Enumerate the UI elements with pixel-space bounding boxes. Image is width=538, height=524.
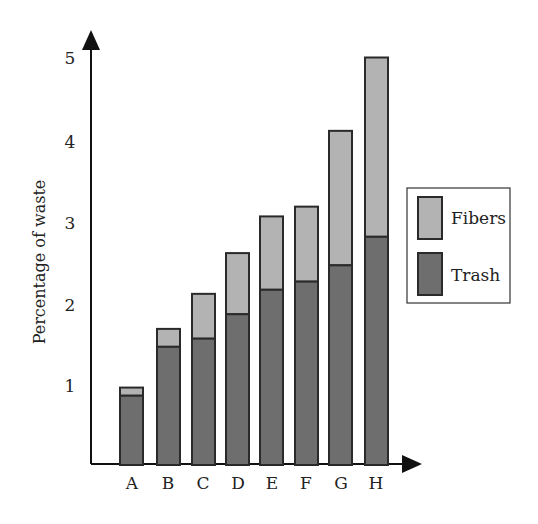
bar-segment-fibers [329,131,352,265]
bar-segment-trash [329,265,352,465]
x-tick-a: A [125,473,139,493]
legend: Fibers Trash [407,188,510,303]
bar-segment-fibers [226,253,249,314]
bar-segment-trash [226,314,249,465]
x-axis-arrow-icon [402,455,422,473]
x-tick-d: D [231,473,245,493]
y-tick-2: 2 [65,295,76,315]
bar-f [295,207,318,465]
y-axis [82,30,100,464]
y-tick-1: 1 [65,376,76,396]
y-tick-3: 3 [65,213,76,233]
bar-h [365,58,388,466]
x-tick-h: H [369,473,384,493]
bar-b [157,329,180,465]
bar-segment-fibers [192,294,215,339]
x-tick-c: C [196,473,209,493]
x-tick-g: G [334,473,348,493]
legend-label-trash: Trash [451,265,500,285]
bar-segment-trash [120,396,143,465]
bar-a [120,388,143,465]
bar-e [260,216,283,465]
x-tick-b: B [162,473,175,493]
x-tick-e: E [266,473,278,493]
y-tick-4: 4 [65,132,76,152]
bar-segment-fibers [157,329,180,347]
stacked-bar-chart: 1 2 3 4 5 Percentage of waste A B C D E … [0,0,538,524]
bar-segment-fibers [295,207,318,282]
y-axis-title: Percentage of waste [30,180,49,345]
bar-segment-trash [365,237,388,465]
bar-c [192,294,215,465]
y-tick-5: 5 [65,48,76,68]
bar-segment-trash [295,282,318,465]
bars [120,58,388,466]
legend-swatch-fibers [418,197,442,239]
x-tick-f: F [300,473,312,493]
bar-segment-fibers [120,388,143,396]
bar-segment-trash [157,347,180,465]
x-tick-labels: A B C D E F G H [125,473,384,493]
bar-d [226,253,249,465]
y-tick-labels: 1 2 3 4 5 [65,48,76,396]
legend-swatch-trash [418,253,442,295]
bar-g [329,131,352,465]
y-axis-arrow-icon [82,30,100,50]
bar-segment-fibers [365,58,388,237]
bar-segment-trash [192,339,215,465]
bar-segment-trash [260,290,283,465]
legend-label-fibers: Fibers [451,208,506,228]
bar-segment-fibers [260,216,283,289]
